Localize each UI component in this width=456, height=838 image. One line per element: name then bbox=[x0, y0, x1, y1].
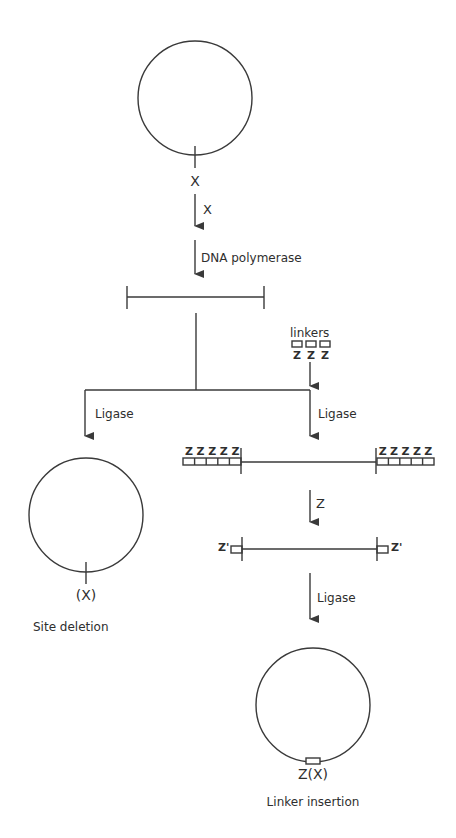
digest-enzyme-label: X bbox=[203, 202, 212, 217]
sticky-end-fragment: Z' Z' bbox=[218, 537, 402, 561]
svg-text:Z: Z bbox=[208, 445, 216, 458]
svg-text:Z: Z bbox=[307, 349, 315, 362]
sticky-end-right bbox=[377, 546, 388, 553]
end-label-left: Z' bbox=[218, 541, 229, 554]
inserted-linker-box bbox=[306, 758, 320, 764]
linker-insertion-plasmid bbox=[256, 648, 370, 762]
plasmid-circle bbox=[138, 41, 252, 155]
linker-box bbox=[306, 341, 316, 347]
linker-insertion-caption: Linker insertion bbox=[267, 795, 360, 809]
right-ligase-label: Ligase bbox=[318, 407, 357, 421]
step-fill-in: DNA polymerase bbox=[195, 240, 302, 274]
linker-concatemer-right bbox=[377, 458, 434, 465]
linear-blunt-fragment bbox=[127, 286, 264, 309]
svg-text:Z: Z bbox=[293, 349, 301, 362]
polymerase-label: DNA polymerase bbox=[201, 251, 302, 265]
site-label-x: X bbox=[190, 173, 200, 189]
branch-connector bbox=[85, 313, 310, 390]
svg-text:Z: Z bbox=[424, 445, 432, 458]
linkers-label: linkers bbox=[290, 326, 329, 340]
svg-text:Z: Z bbox=[390, 445, 398, 458]
linkers: linkers Z Z Z bbox=[290, 326, 330, 386]
cloning-diagram: X X DNA polymerase linkers Z Z Z Ligase bbox=[0, 0, 456, 838]
inserted-site-label: Z(X) bbox=[298, 766, 328, 782]
site-deletion-caption: Site deletion bbox=[33, 620, 109, 634]
svg-text:Z: Z bbox=[220, 445, 228, 458]
svg-text:Z: Z bbox=[379, 445, 387, 458]
sticky-end-left bbox=[231, 546, 242, 553]
diagram-canvas: X X DNA polymerase linkers Z Z Z Ligase bbox=[0, 0, 456, 838]
end-label-right: Z' bbox=[391, 541, 402, 554]
top-plasmid: X bbox=[138, 41, 252, 189]
z-digest-label: Z bbox=[316, 496, 325, 511]
linker-concatemer-left bbox=[183, 458, 241, 465]
left-ligase-label: Ligase bbox=[95, 407, 134, 421]
deleted-site-label: (X) bbox=[76, 587, 97, 603]
svg-text:Z: Z bbox=[197, 445, 205, 458]
linker-box bbox=[292, 341, 302, 347]
svg-text:Z: Z bbox=[231, 445, 239, 458]
final-ligase-label: Ligase bbox=[317, 591, 356, 605]
svg-text:Z: Z bbox=[321, 349, 329, 362]
left-branch: Ligase (X) Site deletion bbox=[29, 390, 143, 634]
linkered-fragment: Z Z Z Z Z Z Z Z Z Z bbox=[183, 445, 434, 474]
site-deletion-plasmid bbox=[29, 458, 143, 572]
svg-text:Z: Z bbox=[185, 445, 193, 458]
linker-box bbox=[320, 341, 330, 347]
step-digest: X bbox=[195, 194, 212, 226]
right-branch: Ligase Z Z Z Z Z Z Z Z Z Z bbox=[183, 390, 434, 809]
svg-text:Z: Z bbox=[402, 445, 410, 458]
svg-text:Z: Z bbox=[413, 445, 421, 458]
